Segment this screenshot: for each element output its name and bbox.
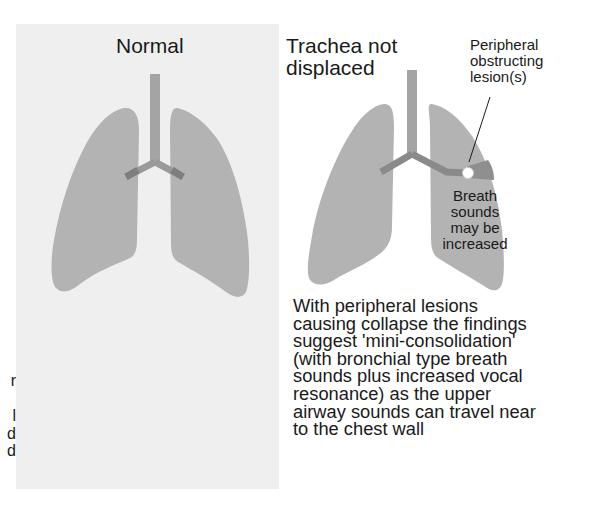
breath-label-line: may be xyxy=(430,220,520,236)
edge-text-line: l xyxy=(0,407,16,425)
cropped-edge-text: r l d d xyxy=(0,372,16,460)
trachea-label-line: Trachea not xyxy=(286,35,446,57)
normal-right-lung xyxy=(52,108,139,292)
lesion-label-line: obstructing xyxy=(470,53,580,69)
trachea-not-displaced-label: Trachea not displaced xyxy=(286,35,446,79)
edge-text-line: d xyxy=(0,442,16,460)
normal-title: Normal xyxy=(116,35,184,56)
normal-lungs xyxy=(52,74,250,297)
breath-label-line: sounds xyxy=(430,204,520,220)
normal-trachea xyxy=(150,74,160,162)
affected-lungs xyxy=(308,70,504,290)
affected-trachea xyxy=(407,70,417,154)
lesion-label-line: lesion(s) xyxy=(470,69,580,85)
caption-line: to the chest wall xyxy=(293,420,589,438)
edge-text-line: r xyxy=(0,372,16,390)
edge-text-line: d xyxy=(0,425,16,443)
caption-line: resonance) as the upper xyxy=(293,385,589,403)
explanation-caption: With peripheral lesions causing collapse… xyxy=(293,297,589,438)
breath-label-line: Breath xyxy=(430,188,520,204)
affected-right-lung xyxy=(308,104,394,285)
caption-line: With peripheral lesions xyxy=(293,297,589,315)
breath-sounds-label: Breath sounds may be increased xyxy=(430,188,520,252)
edge-text-line xyxy=(0,390,16,408)
lesion-label-line: Peripheral xyxy=(470,37,580,53)
breath-label-line: increased xyxy=(430,236,520,252)
obstructing-lesion-marker xyxy=(463,168,474,179)
peripheral-lesion-label: Peripheral obstructing lesion(s) xyxy=(470,37,580,85)
normal-left-lung xyxy=(170,108,249,297)
trachea-label-line: displaced xyxy=(286,57,446,79)
